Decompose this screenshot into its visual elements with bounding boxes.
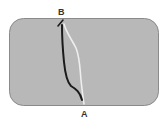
point-b-label: B — [58, 8, 65, 17]
point-a-label: A — [81, 110, 88, 119]
diagram-canvas — [0, 0, 166, 121]
gray-panel — [10, 19, 159, 106]
